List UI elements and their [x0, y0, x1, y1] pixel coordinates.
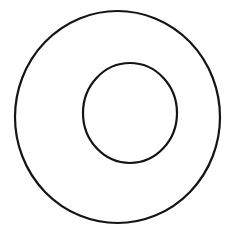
- concentric-circles-diagram: [0, 0, 238, 231]
- background: [0, 0, 238, 231]
